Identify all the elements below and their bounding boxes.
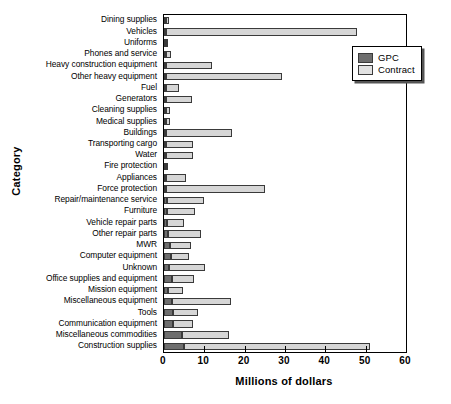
bar-segment-gpc bbox=[164, 275, 172, 282]
bar-row bbox=[164, 150, 406, 161]
bar-chart: Category Dining suppliesVehiclesUniforms… bbox=[0, 0, 451, 404]
bar-stack bbox=[164, 208, 195, 215]
bar-stack bbox=[164, 28, 357, 35]
category-label: Construction supplies bbox=[0, 340, 161, 351]
bar-stack bbox=[164, 39, 168, 46]
bar-segment-contract bbox=[168, 287, 183, 294]
bar-row bbox=[164, 273, 406, 284]
bar-stack bbox=[164, 51, 171, 58]
bar-stack bbox=[164, 152, 193, 159]
category-label: Cleaning supplies bbox=[0, 104, 161, 115]
bar-row bbox=[164, 217, 406, 228]
bar-row bbox=[164, 195, 406, 206]
category-label: Uniforms bbox=[0, 36, 161, 47]
x-tick-label: 30 bbox=[278, 355, 290, 366]
category-label: Medical supplies bbox=[0, 115, 161, 126]
bar-stack bbox=[164, 73, 282, 80]
bar-segment-gpc bbox=[164, 309, 173, 316]
category-label: Office supplies and equipment bbox=[0, 272, 161, 283]
bar-segment-contract bbox=[173, 320, 194, 327]
category-label: Transporting cargo bbox=[0, 138, 161, 149]
category-label: Fire protection bbox=[0, 160, 161, 171]
category-label: Appliances bbox=[0, 171, 161, 182]
bar-segment-contract bbox=[166, 129, 232, 136]
legend-item-contract: Contract bbox=[358, 64, 415, 75]
legend-swatch-contract bbox=[358, 65, 373, 75]
bar-segment-gpc bbox=[164, 253, 171, 260]
legend-swatch-gpc bbox=[358, 53, 373, 63]
category-label: Furniture bbox=[0, 205, 161, 216]
bar-stack bbox=[164, 287, 183, 294]
bar-stack bbox=[164, 331, 229, 338]
bar-segment-contract bbox=[169, 264, 205, 271]
category-label: Vehicle repair parts bbox=[0, 216, 161, 227]
bar-segment-contract bbox=[166, 62, 212, 69]
x-tick-label: 40 bbox=[319, 355, 331, 366]
bar-segment-gpc bbox=[164, 298, 172, 305]
category-label: Force protection bbox=[0, 183, 161, 194]
x-tick-label: 50 bbox=[359, 355, 371, 366]
bar-stack bbox=[164, 62, 212, 69]
bar-segment-contract bbox=[166, 73, 282, 80]
bar-stack bbox=[164, 84, 179, 91]
bar-row bbox=[164, 318, 406, 329]
bar-stack bbox=[164, 264, 205, 271]
bar-row bbox=[164, 15, 406, 26]
bar-stack bbox=[164, 219, 184, 226]
bar-stack bbox=[164, 343, 370, 350]
bar-row bbox=[164, 184, 406, 195]
category-label: Vehicles bbox=[0, 25, 161, 36]
bar-row bbox=[164, 341, 406, 352]
bar-segment-contract bbox=[166, 185, 265, 192]
bar-segment-contract bbox=[170, 242, 190, 249]
category-axis-labels: Dining suppliesVehiclesUniformsPhones an… bbox=[0, 14, 161, 351]
bar-segment-contract bbox=[167, 219, 184, 226]
bar-row bbox=[164, 228, 406, 239]
bar-stack bbox=[164, 107, 170, 114]
bar-stack bbox=[164, 320, 193, 327]
bar-stack bbox=[164, 129, 232, 136]
bar-segment-contract bbox=[166, 28, 357, 35]
bar-segment-contract bbox=[166, 174, 186, 181]
category-label: Water bbox=[0, 149, 161, 160]
category-label: MWR bbox=[0, 239, 161, 250]
category-label: Fuel bbox=[0, 81, 161, 92]
legend-label-contract: Contract bbox=[378, 64, 415, 75]
bar-segment-gpc bbox=[164, 320, 173, 327]
bar-segment-contract bbox=[166, 141, 193, 148]
x-axis-title: Millions of dollars bbox=[163, 375, 405, 387]
bar-row bbox=[164, 105, 406, 116]
category-label: Computer equipment bbox=[0, 250, 161, 261]
bar-row bbox=[164, 285, 406, 296]
category-label: Heavy construction equipment bbox=[0, 59, 161, 70]
bar-stack bbox=[164, 174, 186, 181]
bar-segment-contract bbox=[184, 343, 370, 350]
bar-stack bbox=[164, 242, 191, 249]
bar-stack bbox=[164, 17, 169, 24]
bar-segment-contract bbox=[168, 230, 201, 237]
bar-segment-contract bbox=[166, 96, 192, 103]
category-label: Mission equipment bbox=[0, 284, 161, 295]
bar-row bbox=[164, 206, 406, 217]
bar-segment-contract bbox=[182, 331, 229, 338]
bar-row bbox=[164, 262, 406, 273]
category-label: Other repair parts bbox=[0, 227, 161, 238]
bar-segment-contract bbox=[166, 39, 168, 46]
bar-segment-contract bbox=[166, 107, 170, 114]
bar-row bbox=[164, 307, 406, 318]
x-tick-label: 20 bbox=[238, 355, 250, 366]
bar-row bbox=[164, 82, 406, 93]
bar-stack bbox=[164, 253, 189, 260]
bar-stack bbox=[164, 298, 231, 305]
bar-row bbox=[164, 172, 406, 183]
bar-row bbox=[164, 139, 406, 150]
category-label: Dining supplies bbox=[0, 14, 161, 25]
legend-label-gpc: GPC bbox=[378, 52, 399, 63]
category-label: Phones and service bbox=[0, 48, 161, 59]
bar-row bbox=[164, 251, 406, 262]
x-tick-label: 10 bbox=[198, 355, 210, 366]
category-label: Other heavy equipment bbox=[0, 70, 161, 81]
bar-row bbox=[164, 26, 406, 37]
category-label: Miscellaneous equipment bbox=[0, 295, 161, 306]
category-label: Repair/maintenance service bbox=[0, 194, 161, 205]
